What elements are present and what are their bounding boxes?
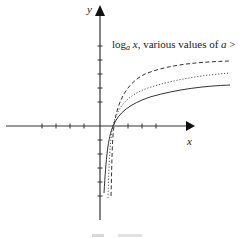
- y-axis-arrow-icon: [95, 5, 105, 16]
- annotation-condition: > 1: [227, 38, 239, 50]
- x-axis-arrow-icon: [186, 121, 195, 131]
- curve-annotation: loga x, various values of a > 1: [112, 38, 239, 52]
- log-prefix: log: [112, 38, 127, 50]
- log-graph-figure: x y loga x, various values of a > 1: [0, 0, 239, 238]
- log-curve-dotted: [108, 73, 230, 198]
- log-suffix-var: x: [130, 38, 138, 50]
- figure-caption-clipped: [92, 234, 142, 237]
- y-axis: y: [86, 3, 105, 220]
- annotation-middle: , various values of: [138, 38, 221, 50]
- curves: [104, 61, 230, 198]
- log-curve-solid: [104, 85, 230, 193]
- x-axis-label: x: [186, 135, 192, 147]
- y-axis-label: y: [86, 3, 92, 15]
